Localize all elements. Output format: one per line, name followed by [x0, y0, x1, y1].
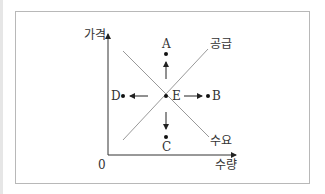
point-E-label: E	[172, 90, 181, 102]
point-E	[164, 94, 168, 98]
point-C-label: C	[162, 141, 171, 153]
origin-label: 0	[98, 159, 106, 171]
point-B	[206, 94, 210, 98]
demand-label: 수요	[210, 135, 232, 147]
point-A	[164, 52, 168, 56]
point-B-label: B	[212, 90, 221, 102]
supply-demand-diagram	[0, 0, 325, 194]
point-A-label: A	[162, 38, 171, 50]
supply-label: 공급	[210, 38, 232, 50]
point-D-label: D	[111, 90, 121, 102]
point-D	[121, 94, 125, 98]
x-axis-label: 수량	[215, 159, 237, 171]
y-axis-label: 가격	[84, 29, 106, 41]
point-C	[164, 135, 168, 139]
